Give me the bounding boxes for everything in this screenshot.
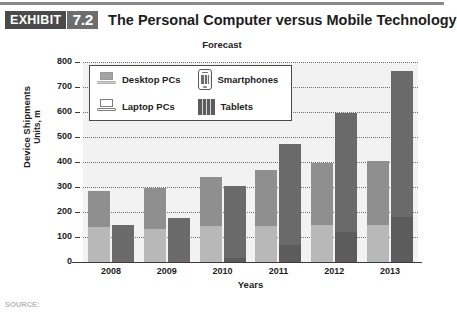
laptop-pc-icon [97, 98, 116, 115]
y-axis-tick-mark [75, 162, 80, 163]
x-axis-tick-label: 2012 [306, 266, 362, 276]
tablet-icon [198, 99, 215, 115]
bar-segment [200, 226, 222, 262]
y-axis-tick-mark [75, 137, 80, 138]
chart-title-forecast: Forecast [0, 39, 444, 50]
bar-pc [200, 177, 222, 262]
y-axis-tick-mark [75, 87, 80, 88]
y-axis-tick-label: 100 [38, 231, 72, 241]
bar-mobile [279, 144, 301, 262]
bar-segment [279, 245, 301, 262]
bar-pc [311, 163, 333, 262]
x-axis-line [72, 262, 422, 263]
legend-item-laptop: Laptop PCs [90, 93, 191, 120]
y-axis-tick-label: 800 [38, 56, 72, 66]
bar-segment [224, 186, 246, 258]
y-axis-tick-label: 500 [38, 131, 72, 141]
bar-segment [311, 225, 333, 263]
bar-pc [255, 170, 277, 262]
exhibit-title: The Personal Computer versus Mobile Tech… [108, 12, 457, 28]
bar-mobile [168, 218, 190, 263]
bar-group [362, 62, 418, 262]
legend-label-smartphones: Smartphones [218, 74, 279, 85]
bar-mobile [112, 225, 134, 263]
bar-pc [88, 191, 110, 262]
legend-item-smartphones: Smartphones [191, 66, 292, 93]
bar-pc [367, 161, 389, 262]
x-axis-tick-label: 2010 [195, 266, 251, 276]
y-axis-tick-mark [75, 212, 80, 213]
bar-segment [335, 113, 357, 232]
legend-label-laptop: Laptop PCs [122, 101, 175, 112]
y-axis-tick-label: 300 [38, 181, 72, 191]
bar-segment [335, 232, 357, 262]
y-axis-tick-mark [75, 262, 80, 263]
bar-segment [391, 71, 413, 217]
y-axis-tick-mark [75, 237, 80, 238]
legend-label-tablets: Tablets [221, 101, 254, 112]
bar-segment [144, 188, 166, 230]
x-axis-tick-label: 2009 [139, 266, 195, 276]
x-axis-tick-label: 2013 [362, 266, 418, 276]
exhibit-header: EXHIBIT 7.2 The Personal Computer versus… [5, 11, 457, 29]
chart-legend: Desktop PCs Smartphones Laptop PCs Table… [89, 65, 292, 121]
x-axis-tick-label: 2008 [83, 266, 139, 276]
bar-segment [144, 229, 166, 262]
bar-segment [391, 217, 413, 262]
bar-segment [367, 161, 389, 225]
header-rule [0, 2, 444, 5]
smartphone-icon [198, 69, 212, 90]
bar-segment [279, 144, 301, 245]
bar-segment [168, 218, 190, 263]
y-axis-tick-label: 0 [38, 256, 72, 266]
y-axis-tick-mark [75, 112, 80, 113]
bar-segment [255, 170, 277, 226]
bar-segment [367, 225, 389, 263]
bar-segment [88, 191, 110, 227]
desktop-pc-icon [97, 71, 116, 88]
bar-group [306, 62, 362, 262]
bar-mobile [224, 186, 246, 263]
y-axis-tick-label: 200 [38, 206, 72, 216]
exhibit-number: 7.2 [67, 11, 98, 29]
bar-segment [255, 226, 277, 262]
bar-segment [88, 227, 110, 262]
x-axis-tick-label: 2011 [250, 266, 306, 276]
bar-mobile [335, 113, 357, 262]
y-axis-tick-label: 700 [38, 81, 72, 91]
x-axis-title: Years [83, 279, 418, 290]
bar-segment [200, 177, 222, 226]
exhibit-tag: EXHIBIT [5, 11, 66, 29]
bar-mobile [391, 71, 413, 262]
bar-segment [311, 163, 333, 224]
legend-item-desktop: Desktop PCs [90, 66, 191, 93]
y-axis-title-main: Device Shipments [21, 67, 32, 187]
source-line: SOURCE: [5, 300, 439, 310]
y-axis-tick-mark [75, 62, 80, 63]
chart-figure: Forecast Device Shipments Units, m Years… [0, 36, 444, 288]
legend-item-tablets: Tablets [191, 93, 292, 120]
y-axis-tick-label: 600 [38, 106, 72, 116]
y-axis-tick-label: 400 [38, 156, 72, 166]
bar-pc [144, 188, 166, 263]
legend-label-desktop: Desktop PCs [122, 74, 181, 85]
bar-segment [112, 225, 134, 263]
y-axis-tick-mark [75, 187, 80, 188]
